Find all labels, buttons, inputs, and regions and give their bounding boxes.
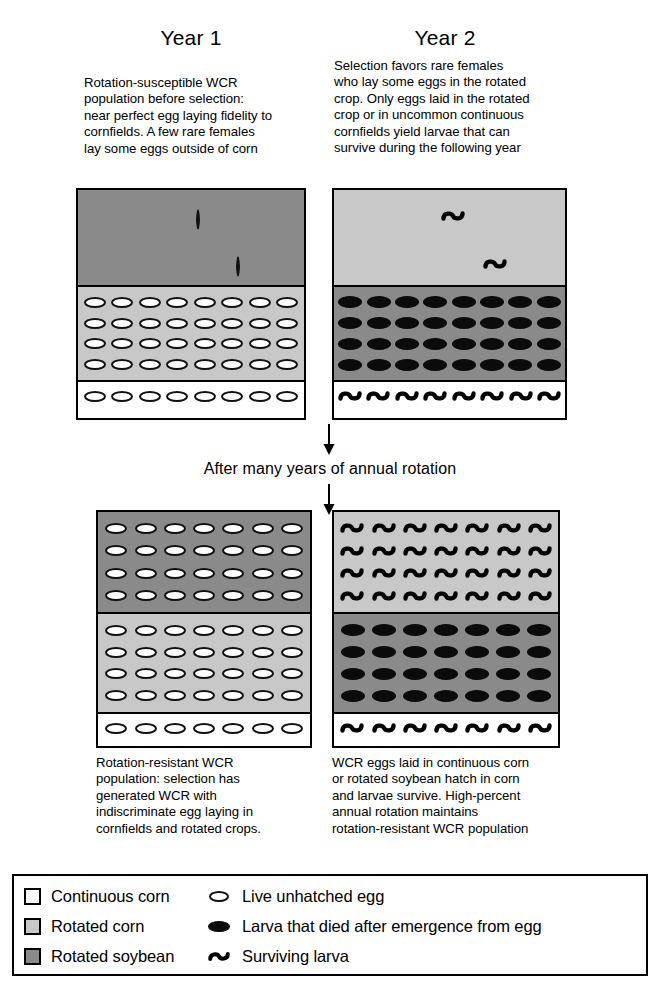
dead-larva-icon	[496, 668, 520, 680]
egg-icon	[221, 338, 243, 349]
egg-icon	[166, 338, 188, 349]
egg-icon	[194, 359, 216, 370]
egg-icon	[135, 523, 157, 534]
field-band-light	[78, 285, 304, 380]
egg-icon	[193, 690, 215, 701]
egg-icon	[105, 590, 127, 601]
egg-icon	[252, 590, 274, 601]
dead-larva-icon	[372, 668, 396, 680]
egg-icon	[252, 690, 274, 701]
egg-icon	[105, 545, 127, 556]
egg-icon	[249, 338, 271, 349]
dead-larva-icon	[423, 317, 447, 329]
surviving-larva-icon	[464, 721, 490, 735]
egg-icon	[221, 318, 243, 329]
dead-larva-icon	[204, 921, 234, 932]
legend-item-continuous-corn: Continuous corn	[24, 881, 174, 911]
dead-larva-icon	[403, 668, 427, 680]
surviving-larva-icon	[422, 389, 448, 403]
dead-larva-icon	[367, 338, 391, 350]
dead-larva-icon	[452, 338, 476, 350]
legend-label: Surviving larva	[242, 947, 349, 966]
surviving-larva-icon	[482, 257, 508, 271]
surviving-larva-icon	[464, 521, 490, 535]
dead-larva-icon	[367, 359, 391, 371]
dead-larva-icon	[367, 296, 391, 308]
dead-larva-icon	[508, 296, 532, 308]
egg-icon	[221, 297, 243, 308]
surviving-larva-icon	[464, 589, 490, 603]
year-1-title: Year 1	[76, 26, 306, 50]
egg-icon	[193, 668, 215, 679]
marker-row	[78, 338, 304, 349]
egg-icon	[249, 297, 271, 308]
legend-item-rotated-soybean: Rotated soybean	[24, 941, 174, 971]
marker-row	[334, 389, 565, 403]
surviving-larva-icon	[339, 566, 365, 580]
egg-icon	[276, 297, 298, 308]
surviving-larva-icon	[371, 566, 397, 580]
egg-icon	[221, 391, 243, 402]
marker-row	[334, 646, 558, 658]
dead-larva-icon	[527, 646, 551, 658]
surviving-larva-icon	[339, 521, 365, 535]
egg-icon	[276, 391, 298, 402]
dead-larva-icon	[465, 690, 489, 702]
marker-row	[334, 338, 565, 350]
egg-icon	[281, 590, 303, 601]
egg-icon	[105, 625, 127, 636]
egg-icon	[84, 391, 106, 402]
egg-icon	[84, 318, 106, 329]
egg-icon	[281, 625, 303, 636]
egg-icon	[194, 391, 216, 402]
dead-larva-icon	[372, 624, 396, 636]
egg-icon	[111, 391, 133, 402]
surviving-larva-icon	[496, 589, 522, 603]
marker-row	[98, 690, 310, 701]
surviving-larva-icon	[371, 544, 397, 558]
dead-larva-icon	[496, 624, 520, 636]
dead-larva-icon	[423, 296, 447, 308]
egg-icon	[139, 359, 161, 370]
year-2-top-field-panel	[332, 188, 567, 420]
field-band-dark	[334, 612, 558, 712]
dead-larva-icon	[403, 690, 427, 702]
transition-arrow-top	[322, 424, 336, 456]
egg-icon	[194, 318, 216, 329]
dead-larva-icon	[496, 690, 520, 702]
surviving-larva-icon	[433, 544, 459, 558]
surviving-larva-icon	[365, 389, 391, 403]
egg-icon	[111, 318, 133, 329]
legend-label: Rotated corn	[51, 917, 144, 936]
dead-larva-icon	[480, 359, 504, 371]
dead-larva-icon	[537, 317, 561, 329]
dead-larva-icon	[341, 668, 365, 680]
egg-icon	[222, 590, 244, 601]
dead-larva-icon	[434, 690, 458, 702]
egg-icon	[164, 523, 186, 534]
egg-icon	[105, 723, 127, 734]
dead-larva-icon	[338, 359, 362, 371]
marker-row	[334, 624, 558, 636]
field-band-white	[98, 712, 310, 742]
dead-larva-icon	[338, 296, 362, 308]
egg-icon	[135, 690, 157, 701]
egg-icon	[276, 318, 298, 329]
egg-icon	[111, 338, 133, 349]
marker-row	[334, 359, 565, 371]
egg-icon	[222, 568, 244, 579]
year-1-top-field-panel	[76, 188, 306, 420]
surviving-larva-icon	[451, 389, 477, 403]
surviving-larva-icon	[402, 521, 428, 535]
egg-icon	[252, 625, 274, 636]
egg-icon	[135, 545, 157, 556]
field-band-light	[334, 512, 558, 612]
egg-icon	[281, 647, 303, 658]
surviving-larva-icon	[479, 389, 505, 403]
surviving-larva-icon	[371, 589, 397, 603]
field-band-white	[334, 380, 565, 410]
egg-icon	[252, 568, 274, 579]
egg-icon	[135, 625, 157, 636]
egg-icon	[221, 359, 243, 370]
field-band-light	[98, 612, 310, 712]
